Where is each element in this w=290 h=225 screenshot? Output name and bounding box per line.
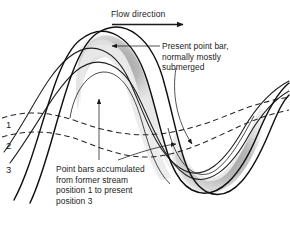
present-point-bar-trough: [175, 126, 264, 193]
accumulated-point-bars-annotation: Point bars accumulated from former strea…: [56, 164, 145, 206]
flow-direction-label: Flow direction: [111, 9, 165, 20]
present-point-bar-annotation: Present point bar, normally mostly subme…: [162, 41, 229, 73]
figure-root: Flow direction Present point bar, normal…: [0, 0, 290, 225]
position-label-3: 3: [6, 164, 11, 175]
meander-diagram-svg: [0, 0, 290, 225]
position-label-2: 2: [6, 140, 11, 151]
position-label-1: 1: [6, 119, 11, 130]
